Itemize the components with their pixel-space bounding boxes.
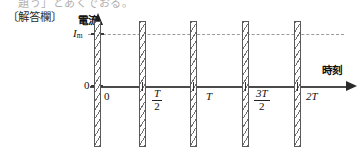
- x-axis-tick: [193, 82, 195, 91]
- x-axis-label-time: 時刻: [322, 62, 342, 77]
- x-tick-label-T: T: [206, 90, 212, 102]
- peak-current-dashed-line: [88, 34, 344, 35]
- fraction-denominator: 2: [254, 101, 270, 113]
- worksheet-figure-page: 題う」とあくでおる。 〔解答欄〕 電流 時刻 Im 0 0: [0, 0, 363, 159]
- fraction-half-T: T 2: [152, 88, 162, 113]
- fraction-numerator: 3T: [254, 88, 270, 101]
- impulse-bar: [94, 21, 101, 147]
- fraction-three-half-T: 3T 2: [254, 88, 270, 113]
- x-axis-tick: [245, 82, 247, 91]
- x-axis-tick: [297, 82, 299, 91]
- fraction-denominator: 2: [152, 101, 162, 113]
- x-axis-line: [90, 86, 348, 88]
- current-vs-time-plot: 電流 時刻 Im 0 0 T 2 T: [0, 0, 363, 159]
- x-axis-arrow-icon: [346, 81, 357, 91]
- x-tick-label-half-T: T 2: [152, 88, 162, 113]
- x-tick-label-0: 0: [104, 90, 110, 102]
- x-tick-label-2T: 2T: [306, 90, 318, 102]
- peak-current-label: Im: [73, 27, 83, 40]
- origin-label-y: 0: [84, 79, 90, 91]
- peak-current-label-subscript: m: [77, 31, 83, 40]
- x-tick-label-three-half-T: 3T 2: [254, 88, 270, 113]
- x-axis-tick: [142, 82, 144, 91]
- fraction-numerator: T: [152, 88, 162, 101]
